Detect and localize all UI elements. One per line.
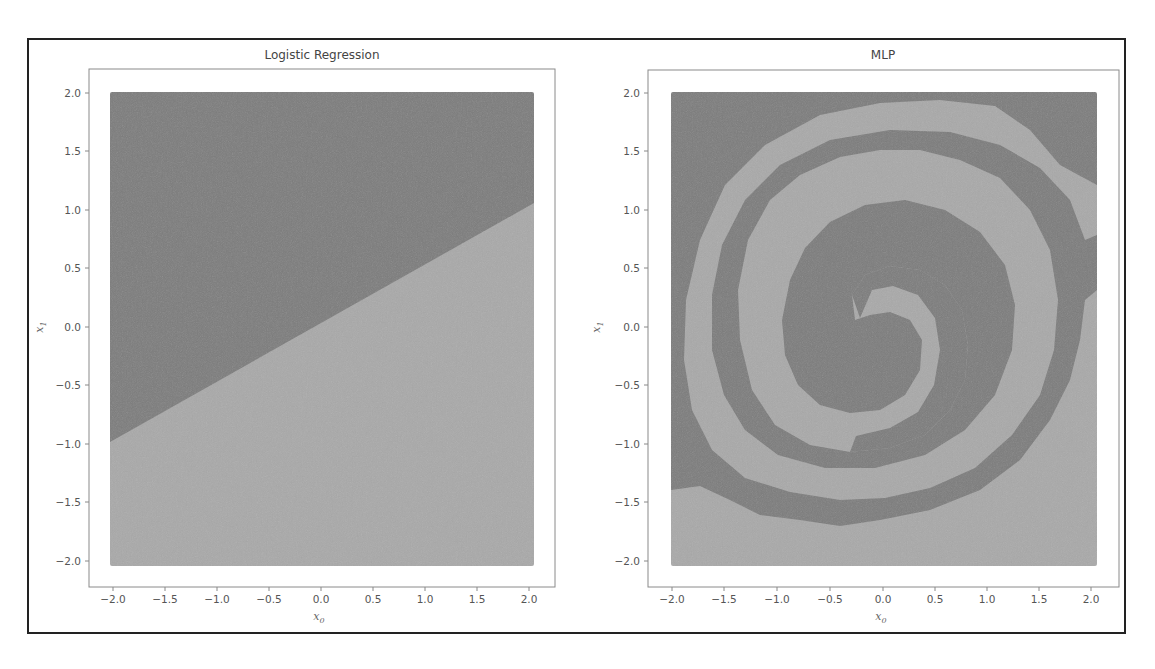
x-tick-label: 1.5: [469, 593, 486, 605]
y-axis-label: x1: [33, 321, 48, 332]
y-tick-label: −1.5: [615, 496, 641, 508]
x-tick-label: 1.0: [417, 593, 434, 605]
x-tick-label: 0.0: [875, 593, 892, 605]
y-tick-label: 0.0: [64, 321, 81, 333]
y-tick-label: −2.0: [615, 555, 641, 567]
y-tick-label: −0.5: [615, 379, 641, 391]
x-tick-label: 1.0: [979, 593, 996, 605]
y-tick-label: 2.0: [623, 87, 640, 99]
y-tick-label: 2.0: [64, 87, 81, 99]
y-tick-label: 0.0: [623, 321, 640, 333]
x-tick-label: 1.5: [1031, 593, 1048, 605]
x-tick-label: −1.5: [711, 593, 737, 605]
y-tick-label: −2.0: [56, 555, 82, 567]
y-axis: 2.0 1.5 1.0 0.5 0.0 −0.5 −1.0 −1.5 −2.0 …: [590, 87, 648, 567]
x-tick-label: −1.0: [764, 593, 790, 605]
y-tick-label: 1.0: [623, 204, 640, 216]
mlp-plot: MLP 2.0 1.5 1.0 0.5 0.0 −0.5 −1.0 −1.5 −…: [590, 48, 1119, 625]
decision-regions: [671, 92, 1097, 566]
x-tick-label: −0.5: [817, 593, 843, 605]
x-tick-label: 0.5: [365, 593, 382, 605]
decision-regions: [110, 92, 534, 566]
y-tick-label: −0.5: [56, 379, 82, 391]
y-axis: 2.0 1.5 1.0 0.5 0.0 −0.5 −1.0 −1.5 −2.0 …: [33, 87, 89, 567]
x-tick-label: 0.5: [927, 593, 944, 605]
logistic-regression-plot: Logistic Regression 2.0 1.5 1.0 0.5 0.0 …: [33, 48, 555, 625]
y-tick-label: 1.5: [623, 145, 640, 157]
x-tick-label: −1.0: [204, 593, 230, 605]
y-axis-label: x1: [590, 321, 605, 332]
x-axis-label: x0: [313, 610, 324, 625]
x-tick-label: 2.0: [1083, 593, 1100, 605]
x-tick-label: −2.0: [100, 593, 126, 605]
plot-title: MLP: [871, 48, 895, 62]
x-axis: −2.0 −1.5 −1.0 −0.5 0.0 0.5 1.0 1.5 2.0 …: [659, 587, 1099, 625]
x-tick-label: 0.0: [313, 593, 330, 605]
plot-title: Logistic Regression: [264, 48, 379, 62]
y-tick-label: −1.0: [615, 438, 641, 450]
y-tick-label: −1.0: [56, 438, 82, 450]
y-tick-label: 0.5: [623, 262, 640, 274]
y-tick-label: −1.5: [56, 496, 82, 508]
x-axis-label: x0: [875, 610, 886, 625]
x-axis: −2.0 −1.5 −1.0 −0.5 0.0 0.5 1.0 1.5 2.0 …: [100, 587, 537, 625]
x-tick-label: 2.0: [521, 593, 538, 605]
y-tick-label: 1.5: [64, 145, 81, 157]
y-tick-label: 0.5: [64, 262, 81, 274]
x-tick-label: −2.0: [659, 593, 685, 605]
x-tick-label: −0.5: [256, 593, 282, 605]
figure-canvas: Logistic Regression 2.0 1.5 1.0 0.5 0.0 …: [0, 0, 1155, 669]
y-tick-label: 1.0: [64, 204, 81, 216]
x-tick-label: −1.5: [152, 593, 178, 605]
